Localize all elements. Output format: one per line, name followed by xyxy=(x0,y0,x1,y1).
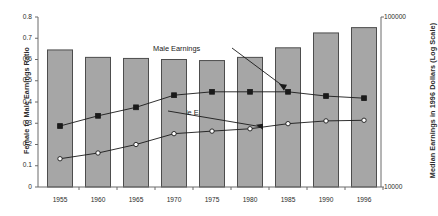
marker-male-1996 xyxy=(362,96,367,101)
marker-female-1960 xyxy=(96,151,100,155)
bar-1980 xyxy=(238,57,263,187)
bar-1975 xyxy=(200,61,225,187)
marker-female-1970 xyxy=(172,131,176,135)
marker-female-1980 xyxy=(248,127,252,131)
marker-male-1960 xyxy=(96,113,101,118)
marker-female-1955 xyxy=(58,157,62,161)
marker-female-1965 xyxy=(134,142,138,146)
marker-male-1990 xyxy=(324,94,329,99)
bar-1960 xyxy=(86,57,111,187)
marker-male-1975 xyxy=(210,89,215,94)
bar-1970 xyxy=(162,60,187,188)
marker-female-1985 xyxy=(286,121,290,125)
marker-female-1975 xyxy=(210,129,214,133)
marker-male-1980 xyxy=(248,89,253,94)
marker-male-1985 xyxy=(286,89,291,94)
bar-1996 xyxy=(352,28,377,187)
marker-male-1965 xyxy=(134,105,139,110)
chart-container: Female to Male Earnings Ratio Median Ear… xyxy=(0,0,438,216)
bar-1985 xyxy=(276,48,301,187)
marker-female-1996 xyxy=(362,118,366,122)
bar-1965 xyxy=(124,58,149,187)
plot-area xyxy=(0,0,438,216)
marker-female-1990 xyxy=(324,119,328,123)
marker-male-1970 xyxy=(172,93,177,98)
bar-1955 xyxy=(48,50,73,187)
marker-male-1955 xyxy=(58,124,63,129)
bar-1990 xyxy=(314,33,339,187)
